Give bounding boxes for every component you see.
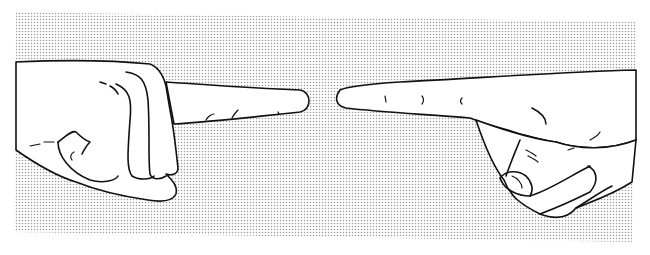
pointing-hands-illustration	[0, 0, 650, 255]
